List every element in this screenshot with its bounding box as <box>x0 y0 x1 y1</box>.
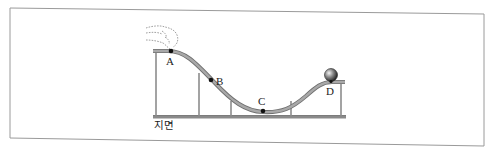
diagram-canvas: A B C D 지면 <box>0 0 490 151</box>
ground-label: 지면 <box>154 119 174 131</box>
hand-icon <box>146 26 178 49</box>
outer-frame <box>10 8 484 146</box>
ground-line <box>153 116 346 119</box>
track <box>153 51 345 112</box>
point-c-label: C <box>258 95 265 107</box>
point-a-label: A <box>166 55 174 67</box>
point-d-label: D <box>326 85 334 97</box>
point-d: D <box>326 85 334 97</box>
point-b-label: B <box>216 75 223 87</box>
track-supports <box>156 52 341 116</box>
